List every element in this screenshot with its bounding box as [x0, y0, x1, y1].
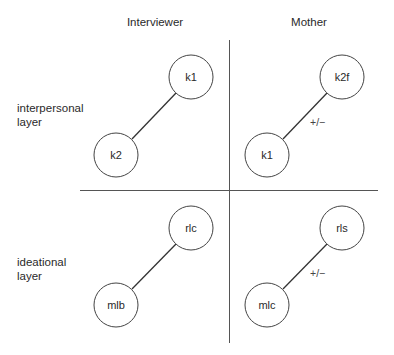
- row-label-line: ideational: [17, 255, 66, 269]
- node-label: rlc: [169, 221, 213, 235]
- edge-label: +/−: [310, 116, 325, 128]
- row-label-line: layer: [17, 269, 66, 283]
- node-label: mlc: [245, 298, 289, 312]
- node-label: k1: [169, 70, 213, 84]
- edge-interviewer-ideational: [132, 244, 176, 289]
- node-label: mlb: [94, 298, 138, 312]
- row-label-ideational: ideational layer: [17, 255, 66, 283]
- node-label: rls: [320, 221, 364, 235]
- column-header-interviewer: Interviewer: [95, 16, 215, 28]
- row-label-line: layer: [17, 115, 83, 129]
- node-label: k2f: [320, 70, 364, 84]
- diagram-canvas: [0, 0, 394, 355]
- edge-label: +/−: [310, 267, 325, 279]
- row-label-interpersonal: interpersonal layer: [17, 101, 83, 129]
- row-label-line: interpersonal: [17, 101, 83, 115]
- node-label: k2: [94, 148, 138, 162]
- column-header-mother: Mother: [249, 16, 369, 28]
- edge-interviewer-interpersonal: [132, 93, 176, 139]
- node-label: k1: [245, 148, 289, 162]
